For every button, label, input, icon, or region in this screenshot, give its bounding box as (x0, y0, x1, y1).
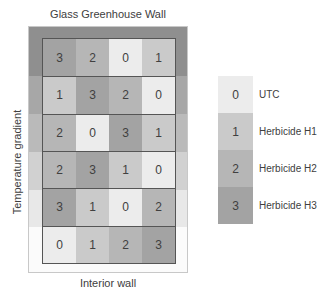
grid-cell: 1 (76, 227, 109, 263)
side-label-temperature-gradient: Temperature gradient (11, 110, 23, 215)
grid-cell: 2 (43, 152, 76, 188)
grid-cell: 0 (142, 77, 175, 113)
grid-cell: 1 (142, 115, 175, 151)
grid-row: 3201 (43, 39, 175, 76)
legend-label: Herbicide H1 (259, 126, 317, 137)
grid-cell: 0 (109, 39, 142, 76)
legend-label: Herbicide H3 (259, 200, 317, 211)
grid-cell: 3 (43, 189, 76, 225)
legend-label: UTC (259, 89, 280, 100)
legend-item: 2Herbicide H2 (218, 150, 321, 187)
grid-cell: 2 (109, 77, 142, 113)
grid-cell: 0 (76, 115, 109, 151)
grid-cell: 2 (109, 227, 142, 263)
grid-cell: 2 (76, 39, 109, 76)
legend-item: 3Herbicide H3 (218, 187, 321, 224)
grid-cell: 3 (109, 115, 142, 151)
legend-swatch: 2 (218, 150, 253, 187)
grid-cell: 1 (142, 39, 175, 76)
grid-cell: 0 (142, 152, 175, 188)
treatment-grid: 320113202031231031020123 (42, 38, 176, 264)
legend-item: 0UTC (218, 76, 321, 113)
legend-label: Herbicide H2 (259, 163, 317, 174)
legend-swatch: 1 (218, 113, 253, 150)
grid-cell: 2 (43, 115, 76, 151)
grid-row: 2310 (43, 151, 175, 188)
top-label-glass-greenhouse-wall: Glass Greenhouse Wall (28, 8, 188, 20)
grid-row: 2031 (43, 114, 175, 151)
grid-cell: 0 (43, 227, 76, 263)
legend: 0UTC1Herbicide H12Herbicide H23Herbicide… (218, 76, 321, 224)
grid-cell: 3 (43, 39, 76, 76)
grid-cell: 0 (109, 189, 142, 225)
grid-row: 3102 (43, 188, 175, 225)
grid-row: 0123 (43, 226, 175, 263)
legend-item: 1Herbicide H1 (218, 113, 321, 150)
bottom-label-interior-wall: Interior wall (28, 277, 188, 289)
grid-cell: 1 (76, 189, 109, 225)
grid-cell: 1 (109, 152, 142, 188)
legend-swatch: 0 (218, 76, 253, 113)
grid-cell: 3 (76, 77, 109, 113)
legend-swatch: 3 (218, 187, 253, 224)
grid-cell: 2 (142, 189, 175, 225)
grid-cell: 1 (43, 77, 76, 113)
grid-cell: 3 (142, 227, 175, 263)
grid-cell: 3 (76, 152, 109, 188)
grid-row: 1320 (43, 76, 175, 113)
